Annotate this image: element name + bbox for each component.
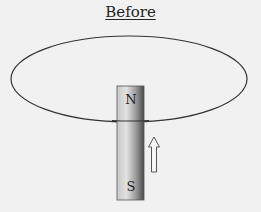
up-arrow-icon xyxy=(149,137,160,172)
north-pole-label: N xyxy=(117,92,145,107)
wire-loop-front xyxy=(112,121,149,122)
south-pole-label: S xyxy=(117,179,145,194)
